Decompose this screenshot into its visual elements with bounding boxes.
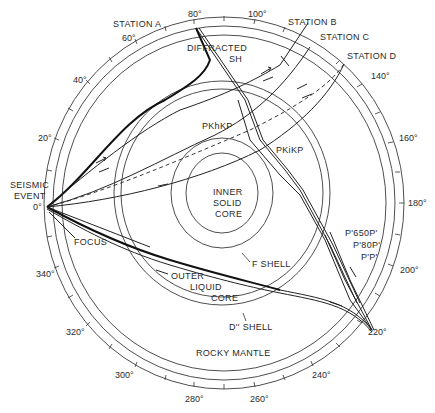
- degree-label: 60°: [122, 33, 136, 43]
- pp-label: P'P': [361, 252, 378, 262]
- degree-label: 100°: [248, 9, 267, 19]
- origin-degree-label: 0°: [33, 202, 42, 212]
- degree-label: 180°: [408, 198, 427, 208]
- degree-label: 80°: [188, 9, 202, 19]
- inner-core-label-2: SOLID: [213, 198, 242, 208]
- degree-label: 20°: [38, 133, 52, 143]
- seismic-ray-diagram: 20° 40° 60° 80° 100° 140° 160° 180° 200°…: [0, 0, 435, 413]
- direction-arrows: [96, 56, 356, 306]
- degree-label: 240°: [312, 370, 331, 380]
- degree-label: 200°: [400, 265, 419, 275]
- sh-label: SH: [229, 54, 242, 64]
- diffracted-label: DIFFRACTED: [187, 43, 247, 53]
- station-c-label: STATION C: [320, 32, 370, 42]
- station-a-label: STATION A: [113, 19, 161, 29]
- station-d-label: STATION D: [347, 51, 397, 61]
- seismic-label: SEISMIC: [10, 180, 49, 190]
- pkhkp-label: PKhKP: [202, 121, 233, 131]
- outer-core-label-3: CORE: [211, 293, 238, 303]
- degree-label: 140°: [371, 71, 390, 81]
- outer-core-label-1: OUTER: [171, 271, 204, 281]
- station-b-label: STATION B: [288, 17, 337, 27]
- focus-label: FOCUS: [74, 237, 107, 247]
- degree-label: 40°: [73, 75, 87, 85]
- f-shell-label: F SHELL: [252, 259, 291, 269]
- p80p-label: P'80P': [353, 240, 380, 250]
- rocky-mantle-label: ROCKY MANTLE: [196, 348, 270, 358]
- degree-label: 260°: [250, 394, 269, 404]
- degree-label: 320°: [66, 327, 85, 337]
- degree-label: 160°: [399, 133, 418, 143]
- event-label: EVENT: [14, 191, 46, 201]
- degree-label: 300°: [115, 370, 134, 380]
- inner-core-label-3: CORE: [215, 209, 242, 219]
- degree-label: 340°: [36, 269, 55, 279]
- p650p-label: P'650P': [345, 228, 378, 238]
- degree-label: 280°: [185, 394, 204, 404]
- pkikp-label: PKiKP: [276, 145, 304, 155]
- outer-core-label-2: LIQUID: [190, 282, 222, 292]
- d-shell-label: D'' SHELL: [229, 322, 273, 332]
- inner-core-label-1: INNER: [213, 187, 243, 197]
